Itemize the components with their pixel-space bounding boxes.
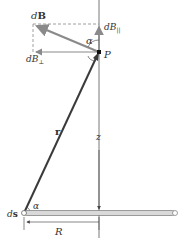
label-r: r (55, 126, 61, 137)
ds-element (22, 211, 27, 216)
loop-field-diagram: dB dB|| dB⊥ α P r z α ds R (0, 0, 183, 243)
label-z: z (95, 132, 101, 142)
label-dB-perp: dB⊥ (26, 54, 44, 65)
label-ds: ds (7, 209, 18, 219)
label-dB: dB (31, 10, 46, 21)
point-P (97, 50, 101, 54)
label-R: R (54, 226, 63, 237)
ring-wire (24, 211, 175, 216)
ring-end (173, 211, 178, 216)
label-alpha-top: α (86, 35, 93, 46)
label-P: P (103, 49, 111, 60)
label-dB-parallel: dB|| (104, 22, 120, 34)
label-alpha-bottom: α (33, 201, 39, 211)
